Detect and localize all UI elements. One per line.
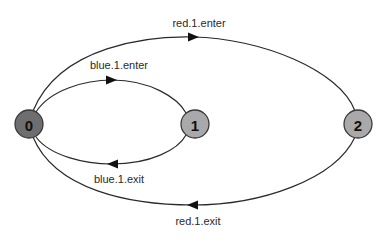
arrow-left-icon — [187, 201, 198, 210]
edge-blue-exit: blue.1.exit — [36, 135, 186, 185]
node-2-label: 2 — [354, 117, 362, 134]
node-1-label: 1 — [191, 117, 199, 134]
node-0: 0 — [15, 110, 43, 138]
arrow-right-icon — [188, 33, 199, 42]
state-diagram: red.1.enter blue.1.enter blue.1.exit red… — [0, 0, 385, 242]
arrow-left-icon — [107, 160, 118, 169]
edge-label-red-enter: red.1.enter — [172, 17, 226, 29]
edge-red-exit: red.1.exit — [33, 137, 355, 227]
edge-blue-enter-path — [36, 80, 186, 113]
edge-red-exit-path — [33, 137, 355, 205]
edge-blue-exit-path — [36, 135, 186, 164]
edge-label-blue-exit: blue.1.exit — [94, 173, 144, 185]
node-1: 1 — [181, 110, 209, 138]
edge-label-blue-enter: blue.1.enter — [90, 59, 148, 71]
edge-red-enter: red.1.enter — [33, 17, 355, 111]
arrow-right-icon — [106, 76, 117, 85]
node-2: 2 — [344, 110, 372, 138]
edge-label-red-exit: red.1.exit — [175, 215, 220, 227]
node-0-label: 0 — [25, 117, 33, 134]
edge-red-enter-path — [33, 37, 355, 111]
edge-blue-enter: blue.1.enter — [36, 59, 186, 113]
